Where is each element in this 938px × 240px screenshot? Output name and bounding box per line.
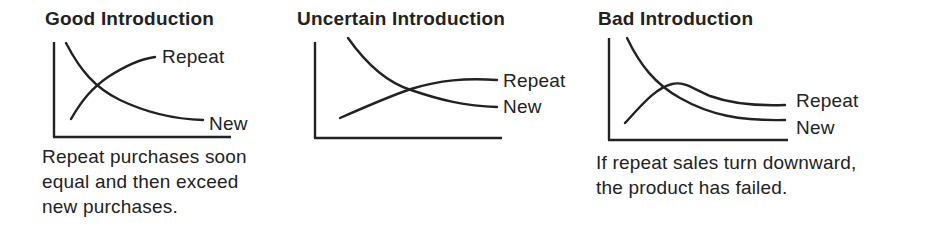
repeat-label: Repeat [162,46,225,67]
caption-bad-introduction: If repeat sales turn downward, the produ… [596,150,857,200]
new-curve [348,38,497,107]
panel-good-introduction-diagram: Repeat New [53,42,248,137]
repeat-curve [625,83,785,123]
repeat-label: Repeat [796,90,859,111]
caption-line: equal and then exceed [42,169,247,194]
new-label: New [796,117,835,138]
caption-good-introduction: Repeat purchases soon equal and then exc… [42,144,247,219]
caption-line: the product has failed. [596,175,857,200]
new-curve [627,38,785,120]
new-label: New [209,113,248,134]
caption-line: If repeat sales turn downward, [596,150,857,175]
repeat-label: Repeat [503,70,566,91]
repeat-curve [340,79,497,118]
caption-line: Repeat purchases soon [42,144,247,169]
panel-bad-introduction-diagram: Repeat New [608,38,859,140]
new-label: New [503,96,542,117]
caption-line: new purchases. [42,194,247,219]
panel-uncertain-introduction-diagram: Repeat New [314,38,566,138]
